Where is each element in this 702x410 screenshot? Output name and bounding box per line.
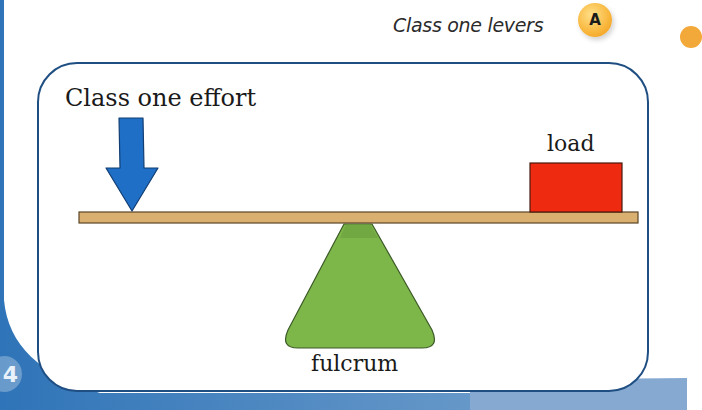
lever-plank (79, 212, 638, 223)
effort-arrow-icon (106, 118, 158, 211)
fulcrum-label: fulcrum (311, 351, 398, 376)
load-box (530, 163, 622, 212)
fulcrum-shape (286, 224, 435, 348)
effort-label: Class one effort (65, 84, 256, 112)
load-label: load (547, 131, 594, 156)
